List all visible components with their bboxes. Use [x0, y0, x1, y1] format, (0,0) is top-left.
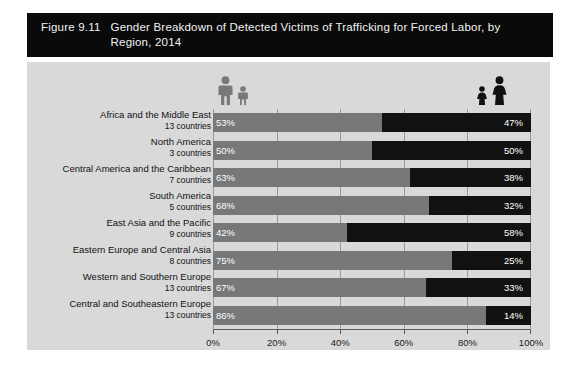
- category-name: Central America and the Caribbean: [35, 163, 211, 175]
- category-label: Central America and the Caribbean 7 coun…: [35, 163, 211, 186]
- category-country-count: 8 countries: [35, 256, 211, 267]
- bar-segment-female: 14%: [486, 306, 531, 325]
- x-axis-line: [213, 329, 531, 330]
- bar-value-label-female: 25%: [504, 253, 523, 268]
- bar-segment-male: 68%: [213, 196, 429, 215]
- category-country-count: 3 countries: [35, 148, 211, 159]
- category-label-column: Africa and the Middle East 13 countries …: [35, 109, 211, 329]
- bar-segment-male: 86%: [213, 306, 486, 325]
- category-country-count: 9 countries: [35, 229, 211, 240]
- category-country-count: 13 countries: [35, 310, 211, 321]
- bar-value-label-female: 50%: [504, 143, 523, 158]
- figure-container: Figure 9.11 Gender Breakdown of Detected…: [0, 0, 581, 367]
- bar-segment-female: 38%: [410, 168, 531, 187]
- bar-value-label-male: 42%: [216, 225, 235, 240]
- figure-number: Figure 9.11: [41, 20, 101, 35]
- x-axis-tick-label: 0%: [206, 336, 220, 349]
- category-label: East Asia and the Pacific 9 countries: [35, 217, 211, 240]
- legend-group-male: [217, 76, 249, 105]
- x-axis-tick: [530, 330, 531, 334]
- woman-icon: [491, 76, 508, 105]
- category-name: East Asia and the Pacific: [35, 217, 211, 229]
- bar-value-label-male: 53%: [216, 115, 235, 130]
- bar-segment-male: 50%: [213, 141, 372, 160]
- bar-row: 86%14%: [213, 306, 531, 325]
- x-axis-tick-label: 60%: [394, 336, 413, 349]
- bar-row: 67%33%: [213, 278, 531, 297]
- bar-value-label-male: 67%: [216, 280, 235, 295]
- category-label: Eastern Europe and Central Asia 8 countr…: [35, 244, 211, 267]
- legend: [27, 62, 550, 106]
- bar-row: 75%25%: [213, 251, 531, 270]
- plot-area: 53%47%50%50%63%38%68%32%42%58%75%25%67%3…: [213, 109, 531, 329]
- bar-row: 42%58%: [213, 223, 531, 242]
- bar-segment-male: 63%: [213, 168, 413, 187]
- x-axis-tick-label: 100%: [519, 336, 543, 349]
- x-axis-tick-label: 20%: [267, 336, 286, 349]
- bar-row: 53%47%: [213, 113, 531, 132]
- girl-icon: [476, 86, 488, 105]
- bar-segment-female: 33%: [426, 278, 531, 297]
- x-axis-tick-label: 80%: [458, 336, 477, 349]
- x-axis-tick: [467, 330, 468, 334]
- category-name: Africa and the Middle East: [35, 109, 211, 121]
- x-axis-tick: [213, 330, 214, 334]
- bar-value-label-female: 58%: [504, 225, 523, 240]
- bar-segment-female: 32%: [429, 196, 531, 215]
- chart-panel: Africa and the Middle East 13 countries …: [27, 62, 550, 350]
- bar-row: 63%38%: [213, 168, 531, 187]
- category-country-count: 13 countries: [35, 121, 211, 132]
- figure-title: Gender Breakdown of Detected Victims of …: [111, 20, 501, 50]
- bar-segment-female: 50%: [372, 141, 531, 160]
- category-name: Western and Southern Europe: [35, 271, 211, 283]
- bar-value-label-male: 86%: [216, 308, 235, 323]
- figure-title-bar: Figure 9.11 Gender Breakdown of Detected…: [27, 13, 553, 57]
- bar-value-label-male: 75%: [216, 253, 235, 268]
- category-name: North America: [35, 136, 211, 148]
- x-axis-tick: [277, 330, 278, 334]
- legend-group-female: [476, 76, 508, 105]
- category-label: Western and Southern Europe 13 countries: [35, 271, 211, 294]
- bar-segment-male: 67%: [213, 278, 426, 297]
- bar-value-label-male: 50%: [216, 143, 235, 158]
- man-icon: [217, 76, 234, 105]
- x-axis-tick: [404, 330, 405, 334]
- category-name: South America: [35, 190, 211, 202]
- category-label: Central and Southeastern Europe 13 count…: [35, 298, 211, 321]
- bar-segment-male: 42%: [213, 223, 347, 242]
- bar-value-label-male: 68%: [216, 198, 235, 213]
- category-country-count: 7 countries: [35, 175, 211, 186]
- bar-segment-male: 53%: [213, 113, 382, 132]
- bar-value-label-female: 38%: [504, 170, 523, 185]
- category-name: Central and Southeastern Europe: [35, 298, 211, 310]
- bar-row: 50%50%: [213, 141, 531, 160]
- bar-value-label-female: 33%: [504, 280, 523, 295]
- bar-value-label-female: 14%: [504, 308, 523, 323]
- category-country-count: 13 countries: [35, 283, 211, 294]
- bar-value-label-female: 47%: [504, 115, 523, 130]
- category-label: Africa and the Middle East 13 countries: [35, 109, 211, 132]
- boy-icon: [237, 86, 249, 105]
- category-country-count: 5 countries: [35, 202, 211, 213]
- bar-value-label-male: 63%: [216, 170, 235, 185]
- x-axis-tick-label: 40%: [331, 336, 350, 349]
- bar-segment-male: 75%: [213, 251, 452, 270]
- bar-segment-female: 25%: [452, 251, 532, 270]
- bar-value-label-female: 32%: [504, 198, 523, 213]
- bar-row: 68%32%: [213, 196, 531, 215]
- figure-title-inner: Figure 9.11 Gender Breakdown of Detected…: [41, 20, 543, 50]
- category-label: South America 5 countries: [35, 190, 211, 213]
- x-axis-tick: [340, 330, 341, 334]
- category-label: North America 3 countries: [35, 136, 211, 159]
- category-name: Eastern Europe and Central Asia: [35, 244, 211, 256]
- bar-segment-female: 47%: [382, 113, 531, 132]
- bar-segment-female: 58%: [347, 223, 531, 242]
